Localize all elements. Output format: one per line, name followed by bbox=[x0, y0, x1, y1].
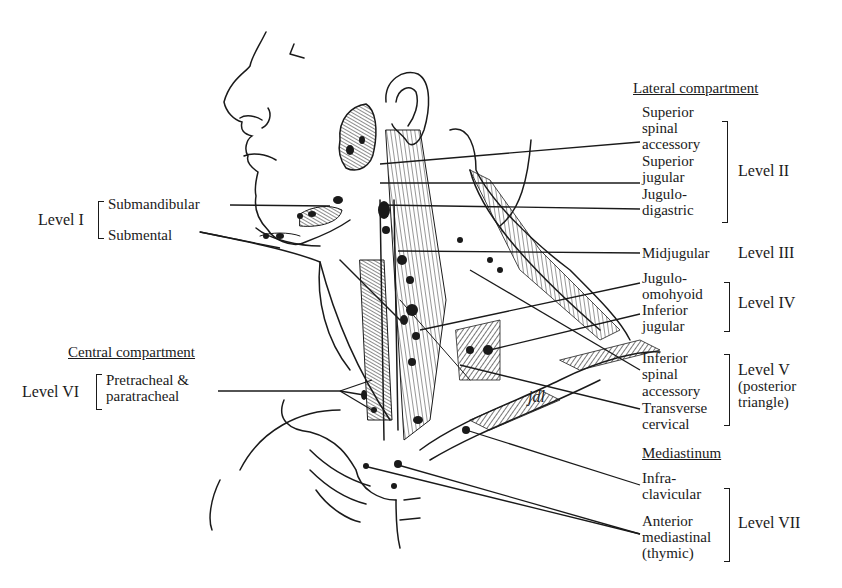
label-spinal-1: spinal bbox=[642, 120, 678, 136]
artist-signature: jdl bbox=[526, 388, 545, 406]
label-submental: Submental bbox=[108, 227, 172, 243]
level-5-label: Level V bbox=[738, 362, 790, 378]
label-digastric: digastric bbox=[642, 202, 694, 218]
label-infra: Infra- bbox=[642, 470, 676, 486]
label-transverse: Transverse bbox=[642, 400, 707, 416]
level-5-bracket bbox=[724, 354, 730, 426]
label-paratracheal: paratracheal bbox=[106, 388, 179, 404]
level-6-bracket bbox=[96, 374, 102, 410]
level-6-label: Level VI bbox=[22, 384, 79, 400]
level-2-bracket bbox=[722, 121, 728, 223]
level-4-bracket bbox=[724, 282, 730, 332]
mediastinum-header: Mediastinum bbox=[642, 445, 721, 461]
label-clavicular: clavicular bbox=[642, 486, 701, 502]
submandibular-gland bbox=[300, 207, 342, 227]
level-3-label: Level III bbox=[738, 245, 794, 261]
central-compartment-header: Central compartment bbox=[68, 344, 195, 360]
level-4-label: Level IV bbox=[738, 295, 795, 311]
label-anterior: Anterior bbox=[642, 513, 693, 529]
level-7-bracket bbox=[724, 488, 730, 562]
label-submandibular: Submandibular bbox=[108, 196, 200, 212]
level-2-label: Level II bbox=[738, 163, 789, 179]
level-5-sublabel-posterior: (posterior bbox=[738, 378, 796, 394]
clavicle-hatch bbox=[470, 390, 560, 430]
label-jugular-2: jugular bbox=[642, 318, 685, 334]
label-inferior-2: Inferior bbox=[642, 350, 688, 366]
label-jugulo-1: Jugulo- bbox=[642, 186, 687, 202]
level-1-label: Level I bbox=[38, 212, 84, 228]
label-spinal-2: spinal bbox=[642, 366, 678, 382]
label-thymic: (thymic) bbox=[642, 545, 694, 561]
level-5-sublabel-triangle: triangle) bbox=[738, 394, 789, 410]
parotid-gland bbox=[339, 104, 376, 170]
label-superior-2: Superior bbox=[642, 153, 694, 169]
label-pretracheal: Pretracheal & bbox=[106, 372, 189, 388]
cropped-caption-fragment bbox=[0, 578, 842, 588]
label-jugular-1: jugular bbox=[642, 169, 685, 185]
label-accessory-2: accessory bbox=[642, 383, 700, 399]
label-cervical: cervical bbox=[642, 416, 689, 432]
label-jugulo-2: Jugulo- bbox=[642, 270, 687, 286]
label-inferior-1: Inferior bbox=[642, 302, 688, 318]
label-superior-1: Superior bbox=[642, 104, 694, 120]
label-accessory-1: accessory bbox=[642, 136, 700, 152]
lateral-compartment-header: Lateral compartment bbox=[633, 80, 758, 96]
label-mediastinal: mediastinal bbox=[642, 529, 711, 545]
face-profile bbox=[224, 32, 300, 244]
label-omohyoid: omohyoid bbox=[642, 286, 703, 302]
eye bbox=[290, 44, 304, 58]
label-midjugular: Midjugular bbox=[642, 245, 710, 261]
level-7-label: Level VII bbox=[738, 515, 800, 531]
level-1-bracket bbox=[98, 201, 104, 239]
